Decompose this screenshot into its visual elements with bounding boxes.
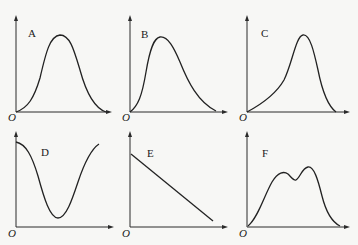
graphs-svg: A O B O C O [0, 0, 358, 245]
figure: A O B O C O [0, 0, 358, 245]
y-axis-arrow-icon [128, 15, 132, 21]
x-axis-arrow-icon [108, 225, 114, 229]
origin-label: O [8, 227, 16, 239]
curve-f [248, 167, 340, 226]
y-axis-arrow-icon [14, 15, 18, 21]
x-axis-arrow-icon [222, 225, 228, 229]
panel-a: A O [8, 15, 112, 123]
panel-label: B [141, 28, 148, 40]
panel-label: C [261, 27, 268, 39]
curve-c [247, 35, 336, 112]
curve-d [16, 142, 99, 218]
origin-label: O [122, 111, 130, 123]
origin-label: O [239, 111, 247, 123]
y-axis-arrow-icon [245, 131, 249, 137]
panel-c: C O [239, 15, 350, 123]
line-e [131, 154, 213, 221]
panel-d: D O [8, 131, 114, 239]
curve-a [16, 35, 106, 112]
panel-b: B O [122, 15, 228, 123]
x-axis-arrow-icon [344, 110, 350, 114]
y-axis-arrow-icon [245, 15, 249, 21]
panel-label: D [41, 146, 49, 158]
panel-f: F O [239, 131, 350, 239]
panel-label: F [262, 147, 268, 159]
x-axis-arrow-icon [222, 110, 228, 114]
panel-label: A [28, 27, 36, 39]
y-axis-arrow-icon [14, 131, 18, 137]
x-axis-arrow-icon [344, 225, 350, 229]
y-axis-arrow-icon [128, 131, 132, 137]
origin-label: O [239, 227, 247, 239]
panel-label: E [147, 147, 154, 159]
origin-label: O [122, 227, 130, 239]
panel-e: E O [122, 131, 228, 239]
x-axis-arrow-icon [106, 110, 112, 114]
origin-label: O [8, 111, 16, 123]
curve-b [130, 37, 216, 112]
